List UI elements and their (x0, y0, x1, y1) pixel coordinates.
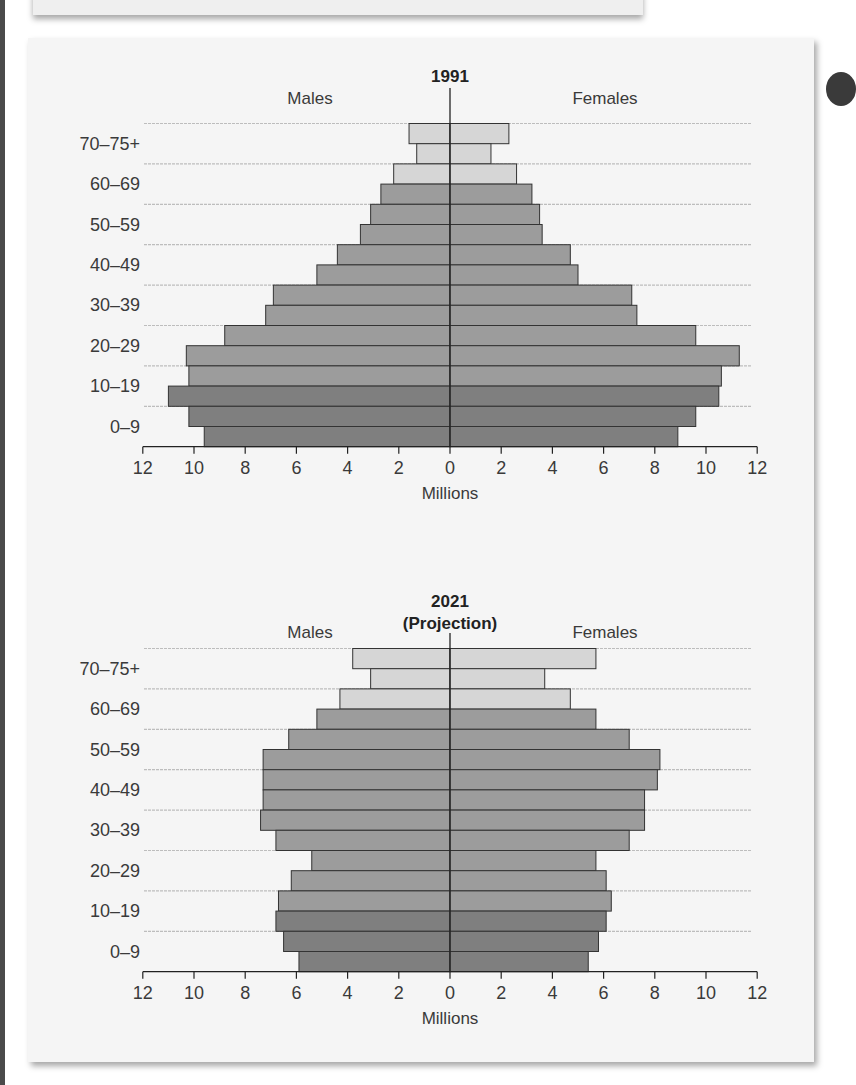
female-bar-30–34 (450, 830, 629, 850)
age-label: 10–19 (90, 901, 140, 921)
x-tick-label: 12 (747, 983, 767, 1003)
male-bar-55–59 (371, 204, 450, 224)
female-bar-35–39 (450, 285, 632, 305)
x-tick-label: 4 (547, 458, 557, 478)
x-tick-label: 10 (696, 983, 716, 1003)
age-label: 40–49 (90, 780, 140, 800)
pyramid-chart-2021: 2021(Projection)MalesFemales70–75+60–695… (0, 525, 840, 1085)
pyramid-chart-1991: 1991MalesFemales70–75+60–6950–5940–4930–… (0, 0, 840, 540)
x-tick-label: 8 (240, 458, 250, 478)
x-tick-label: 2 (496, 458, 506, 478)
x-tick-label: 10 (696, 458, 716, 478)
male-bar-15–19 (189, 366, 450, 386)
age-label: 30–39 (90, 295, 140, 315)
x-tick-label: 8 (650, 458, 660, 478)
chart-subtitle: (Projection) (403, 614, 497, 633)
male-bar-65–69 (394, 164, 450, 184)
female-bar-70–74 (450, 669, 545, 689)
male-bar-0–4 (204, 427, 450, 447)
female-bar-40–44 (450, 790, 645, 810)
male-bar-5–9 (284, 931, 450, 951)
male-bar-10–14 (168, 386, 450, 406)
female-bar-25–29 (450, 326, 696, 346)
female-bar-40–44 (450, 265, 578, 285)
chart-title: 1991 (431, 67, 469, 86)
male-bar-75+ (353, 649, 450, 669)
x-tick-label: 0 (445, 458, 455, 478)
age-label: 0–9 (110, 417, 140, 437)
male-bar-60–64 (381, 184, 450, 204)
male-bar-20–24 (186, 346, 450, 366)
age-label: 60–69 (90, 174, 140, 194)
x-tick-label: 0 (445, 983, 455, 1003)
x-tick-label: 12 (133, 458, 153, 478)
male-bar-75+ (409, 124, 450, 144)
x-axis-title: Millions (422, 1009, 479, 1028)
female-bar-55–59 (450, 204, 540, 224)
age-label: 20–29 (90, 336, 140, 356)
age-label: 60–69 (90, 699, 140, 719)
x-tick-label: 2 (394, 458, 404, 478)
female-bar-10–14 (450, 386, 719, 406)
female-bar-65–69 (450, 689, 570, 709)
female-bar-55–59 (450, 729, 629, 749)
male-bar-65–69 (340, 689, 450, 709)
age-label: 70–75+ (79, 134, 140, 154)
male-bar-25–29 (312, 851, 450, 871)
x-tick-label: 4 (343, 983, 353, 1003)
x-tick-label: 12 (747, 458, 767, 478)
x-tick-label: 6 (291, 458, 301, 478)
x-tick-label: 10 (184, 458, 204, 478)
x-tick-label: 2 (394, 983, 404, 1003)
males-label: Males (287, 89, 332, 108)
x-axis-title: Millions (422, 484, 479, 503)
male-bar-60–64 (317, 709, 450, 729)
male-bar-15–19 (278, 891, 450, 911)
male-bar-70–74 (417, 144, 450, 164)
female-bar-15–19 (450, 891, 611, 911)
age-label: 50–59 (90, 215, 140, 235)
females-label: Females (572, 89, 637, 108)
female-bar-5–9 (450, 406, 696, 426)
male-bar-35–39 (273, 285, 450, 305)
male-bar-50–54 (263, 750, 450, 770)
female-bar-75+ (450, 649, 596, 669)
female-bar-60–64 (450, 709, 596, 729)
female-bar-75+ (450, 124, 509, 144)
age-label: 50–59 (90, 740, 140, 760)
female-bar-5–9 (450, 931, 598, 951)
female-bar-20–24 (450, 871, 606, 891)
females-label: Females (572, 623, 637, 642)
male-bar-45–49 (337, 245, 450, 265)
female-bar-15–19 (450, 366, 721, 386)
male-bar-40–44 (317, 265, 450, 285)
female-bar-70–74 (450, 144, 491, 164)
male-bar-35–39 (261, 810, 450, 830)
x-tick-label: 6 (599, 458, 609, 478)
x-tick-label: 8 (240, 983, 250, 1003)
x-tick-label: 4 (547, 983, 557, 1003)
age-label: 70–75+ (79, 659, 140, 679)
x-tick-label: 6 (599, 983, 609, 1003)
chart-title: 2021 (431, 592, 469, 611)
age-label: 20–29 (90, 861, 140, 881)
males-label: Males (287, 623, 332, 642)
female-bar-10–14 (450, 911, 606, 931)
male-bar-30–34 (276, 830, 450, 850)
female-bar-45–49 (450, 245, 570, 265)
male-bar-45–49 (263, 770, 450, 790)
male-bar-50–54 (360, 225, 450, 245)
female-bar-50–54 (450, 225, 542, 245)
male-bar-20–24 (291, 871, 450, 891)
female-bar-60–64 (450, 184, 532, 204)
x-tick-label: 8 (650, 983, 660, 1003)
female-bar-45–49 (450, 770, 657, 790)
female-bar-30–34 (450, 305, 637, 325)
male-bar-40–44 (263, 790, 450, 810)
x-tick-label: 12 (133, 983, 153, 1003)
male-bar-25–29 (225, 326, 450, 346)
female-bar-25–29 (450, 851, 596, 871)
male-bar-30–34 (266, 305, 450, 325)
female-bar-20–24 (450, 346, 739, 366)
female-bar-35–39 (450, 810, 645, 830)
